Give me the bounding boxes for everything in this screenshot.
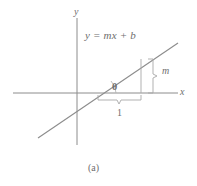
plotted-line xyxy=(38,43,178,138)
y-axis-label: y xyxy=(74,7,78,17)
angle-theta-label: θ xyxy=(112,82,117,92)
line-equation-label: y = mx + b xyxy=(85,30,136,41)
x-axis-label: x xyxy=(180,87,184,97)
run-one-label: 1 xyxy=(117,108,122,118)
rise-brace xyxy=(148,59,157,93)
figure-caption: (a) xyxy=(88,163,99,173)
rise-m-label: m xyxy=(162,66,169,76)
figure-canvas xyxy=(0,0,197,186)
line-slope-figure: y = mx + b y x θ m 1 (a) xyxy=(0,0,197,186)
run-brace xyxy=(98,95,141,104)
